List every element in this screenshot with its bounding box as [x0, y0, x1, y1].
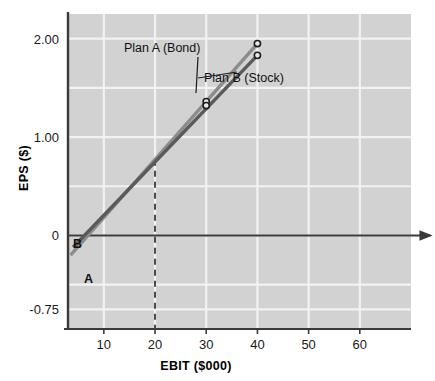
- x-tick-label: 50: [301, 337, 315, 352]
- chart-figure: 1020304050602.001.000-0.75EBIT ($000)EPS…: [0, 0, 435, 381]
- data-point-marker: [203, 102, 209, 108]
- y-axis-ticks: 2.001.000-0.75: [29, 32, 59, 318]
- x-axis-ticks: 102030405060: [97, 329, 367, 352]
- y-tick-label: 1.00: [34, 130, 59, 145]
- x-tick-label: 40: [250, 337, 264, 352]
- y-axis-title: EPS ($): [17, 145, 31, 191]
- x-tick-label: 30: [199, 337, 213, 352]
- y-tick-label: -0.75: [29, 302, 59, 317]
- y-tick-label: 2.00: [34, 32, 59, 47]
- data-point-marker: [254, 52, 260, 58]
- eps-ebit-chart: 1020304050602.001.000-0.75EBIT ($000)EPS…: [0, 0, 435, 381]
- x-tick-label: 20: [148, 337, 162, 352]
- data-point-marker: [254, 40, 260, 46]
- y-tick-label: 0: [52, 228, 59, 243]
- x-tick-label: 60: [353, 337, 367, 352]
- annotation-label: B: [73, 237, 82, 251]
- annotation-label: Plan A (Bond): [124, 41, 200, 55]
- annotation-label: A: [84, 272, 93, 286]
- x-tick-label: 10: [97, 337, 111, 352]
- x-axis-title: EBIT ($000): [160, 359, 231, 373]
- annotation-label: Plan B (Stock): [204, 71, 284, 85]
